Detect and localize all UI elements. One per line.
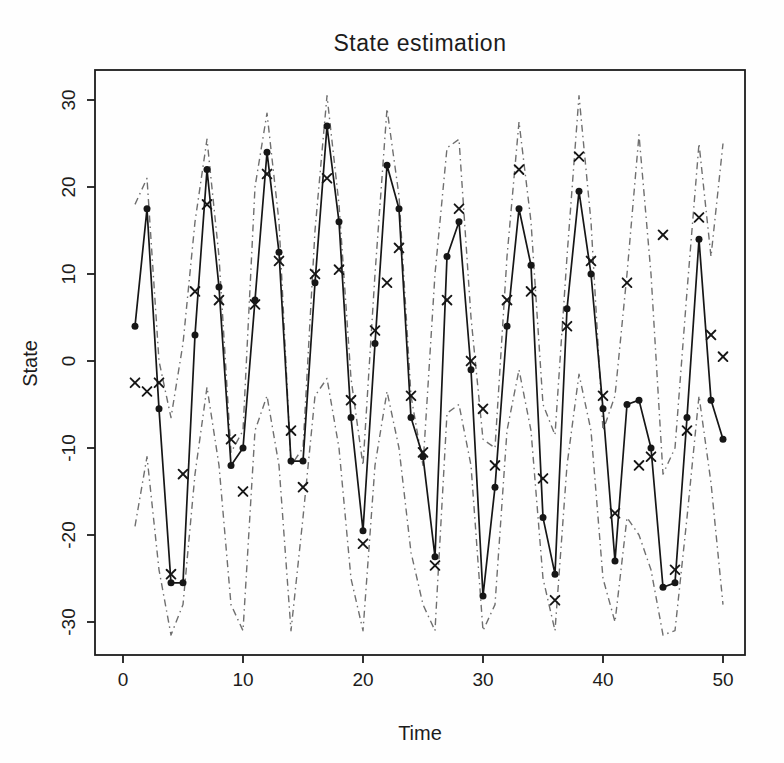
state-point	[276, 249, 283, 256]
y-tick-label: -30	[58, 608, 79, 635]
state-point	[504, 323, 511, 330]
state-point	[708, 397, 715, 404]
observation-marker	[347, 396, 356, 405]
state-point	[492, 484, 499, 491]
state-point	[540, 514, 547, 521]
observation-marker	[695, 213, 704, 222]
y-tick-label: 0	[58, 356, 79, 367]
state-point	[672, 579, 679, 586]
observation-marker	[515, 165, 524, 174]
plot-border	[95, 70, 745, 655]
y-axis-title: State	[19, 184, 42, 544]
observation-marker	[323, 174, 332, 183]
state-point	[144, 205, 151, 212]
state-point	[456, 218, 463, 225]
x-tick-label: 10	[232, 669, 253, 690]
observation-marker	[707, 331, 716, 340]
observation-marker	[659, 230, 668, 239]
state-point	[444, 253, 451, 260]
state-point	[288, 458, 295, 465]
y-tick-label: -10	[58, 434, 79, 461]
observation-marker	[491, 461, 500, 470]
state-point	[480, 592, 487, 599]
observation-marker	[719, 352, 728, 361]
observation-marker	[539, 474, 548, 483]
x-tick-label: 40	[592, 669, 613, 690]
state-point	[168, 579, 175, 586]
state-point	[204, 166, 211, 173]
state-point	[384, 162, 391, 169]
observation-marker	[443, 296, 452, 305]
state-point	[516, 205, 523, 212]
observation-marker	[227, 435, 236, 444]
observation-marker	[179, 470, 188, 479]
state-point	[192, 331, 199, 338]
state-point	[324, 123, 331, 130]
state-point	[396, 205, 403, 212]
state-point	[132, 323, 139, 330]
observation-marker	[623, 278, 632, 287]
observation-marker	[287, 426, 296, 435]
state-point	[336, 218, 343, 225]
observation-marker	[479, 404, 488, 413]
observation-marker	[455, 204, 464, 213]
state-point	[408, 414, 415, 421]
state-point	[648, 445, 655, 452]
observation-marker	[575, 152, 584, 161]
state-point	[240, 445, 247, 452]
state-point	[360, 527, 367, 534]
observation-marker	[551, 596, 560, 605]
x-tick-label: 50	[712, 669, 733, 690]
observation-marker	[383, 278, 392, 287]
state-point	[612, 558, 619, 565]
upper-confidence-bound-line	[135, 96, 723, 474]
state-point	[312, 279, 319, 286]
state-point	[660, 584, 667, 591]
state-point	[564, 305, 571, 312]
state-point	[300, 458, 307, 465]
state-point	[264, 149, 271, 156]
state-point	[588, 271, 595, 278]
observation-marker	[599, 391, 608, 400]
state-point	[696, 236, 703, 243]
y-tick-label: 20	[58, 176, 79, 197]
observation-marker	[155, 378, 164, 387]
state-point	[180, 579, 187, 586]
state-point	[228, 462, 235, 469]
state-point	[348, 414, 355, 421]
observation-marker	[239, 487, 248, 496]
observation-marker	[635, 461, 644, 470]
state-point	[576, 188, 583, 195]
state-point	[468, 366, 475, 373]
chart-title: State estimation	[95, 30, 745, 57]
x-tick-label: 0	[118, 669, 129, 690]
state-point	[552, 571, 559, 578]
state-point	[432, 553, 439, 560]
state-point	[156, 405, 163, 412]
observation-marker	[131, 378, 140, 387]
observation-marker	[527, 287, 536, 296]
y-tick-label: 10	[58, 263, 79, 284]
x-axis-title: Time	[95, 722, 745, 745]
x-tick-label: 30	[472, 669, 493, 690]
y-tick-label: 30	[58, 89, 79, 110]
observation-marker	[587, 257, 596, 266]
observation-marker	[143, 387, 152, 396]
state-line	[135, 126, 723, 596]
observation-marker	[359, 539, 368, 548]
state-point	[636, 397, 643, 404]
state-point	[528, 262, 535, 269]
state-point	[684, 414, 691, 421]
plot-area: 01020304050-30-20-100102030	[0, 0, 784, 763]
state-point	[600, 405, 607, 412]
chart-figure: 01020304050-30-20-100102030 State estima…	[0, 0, 784, 763]
state-point	[216, 284, 223, 291]
x-tick-label: 20	[352, 669, 373, 690]
state-point	[372, 340, 379, 347]
y-tick-label: -20	[58, 521, 79, 548]
observation-marker	[431, 561, 440, 570]
state-point	[624, 401, 631, 408]
observation-marker	[299, 483, 308, 492]
state-point	[720, 436, 727, 443]
